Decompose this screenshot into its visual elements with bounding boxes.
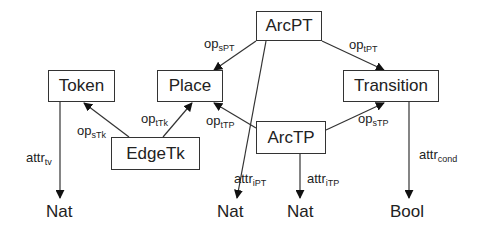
sort-nat-itp: Nat xyxy=(287,203,313,220)
label-op-tPT: optPT xyxy=(349,38,377,54)
sort-nat-tv: Nat xyxy=(46,203,72,220)
label-attr-iTP: attriTP xyxy=(307,172,339,188)
node-label: Place xyxy=(169,76,212,96)
label-attr-cond: attrcond xyxy=(419,148,457,164)
edges-layer xyxy=(0,0,488,233)
node-label: EdgeTk xyxy=(126,144,185,164)
node-token: Token xyxy=(48,70,115,102)
node-edgetk: EdgeTk xyxy=(111,137,200,170)
label-attr-iPT: attriPT xyxy=(234,172,266,188)
label-op-sTk: opsTk xyxy=(77,124,106,140)
node-arcpt: ArcPT xyxy=(256,11,322,41)
sort-bool: Bool xyxy=(390,203,424,220)
node-place: Place xyxy=(157,70,223,102)
label-op-tTk: optTk xyxy=(141,112,168,128)
type-graph-diagram: ArcPT Token Place Transition EdgeTk ArcT… xyxy=(0,0,488,233)
label-attr-tv: attrtv xyxy=(26,151,52,167)
label-op-tTP: optTP xyxy=(206,114,234,130)
node-label: Transition xyxy=(354,76,428,96)
node-transition: Transition xyxy=(343,70,439,102)
label-op-sPT: opsPT xyxy=(204,37,234,53)
node-label: ArcPT xyxy=(265,16,312,36)
node-label: ArcTP xyxy=(267,128,314,148)
node-label: Token xyxy=(59,76,104,96)
label-op-sTP: opsTP xyxy=(358,112,388,128)
node-arctp: ArcTP xyxy=(256,121,326,154)
sort-nat-ipt: Nat xyxy=(217,203,243,220)
